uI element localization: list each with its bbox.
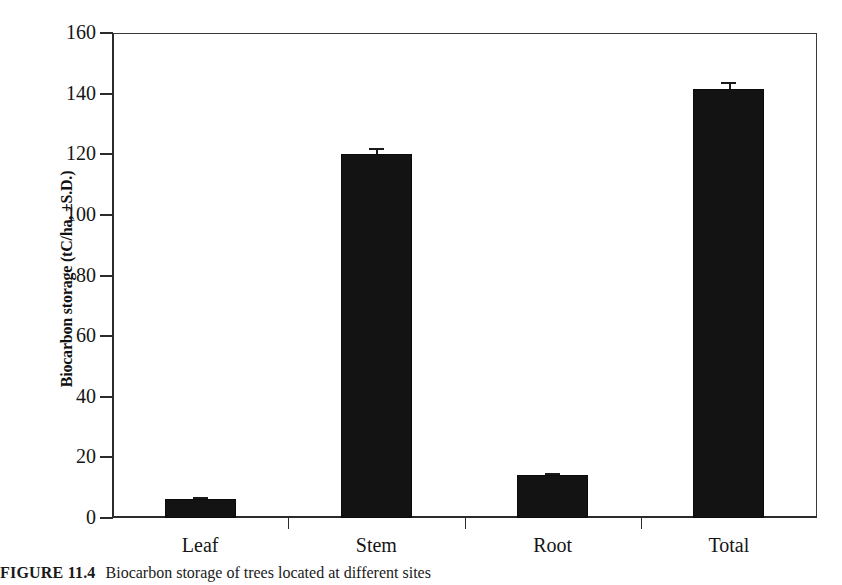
error-bar-cap-root bbox=[545, 473, 560, 475]
bar-total bbox=[693, 89, 764, 518]
caption-body: Biocarbon storage of trees located at di… bbox=[106, 564, 431, 581]
x-tick-mark bbox=[288, 518, 289, 529]
error-bar-cap-stem bbox=[369, 148, 384, 150]
y-tick-mark bbox=[100, 517, 113, 519]
figure-container: Biocarbon storage (tC/ha, ±S.D.) 0204060… bbox=[0, 0, 842, 585]
figure-caption: FIGURE 11.4Biocarbon storage of trees lo… bbox=[0, 564, 842, 582]
error-bar-cap-leaf bbox=[193, 497, 208, 499]
y-tick-mark bbox=[100, 32, 113, 34]
y-tick-mark bbox=[100, 335, 113, 337]
y-tick-label: 80 bbox=[48, 265, 96, 285]
x-tick-label-stem: Stem bbox=[296, 534, 456, 557]
y-tick-mark bbox=[100, 275, 113, 277]
x-tick-label-leaf: Leaf bbox=[120, 534, 280, 557]
y-tick-label: 120 bbox=[48, 143, 96, 163]
y-tick-label: 60 bbox=[48, 325, 96, 345]
y-tick-label: 100 bbox=[48, 204, 96, 224]
x-tick-mark bbox=[641, 518, 642, 529]
bar-root bbox=[517, 475, 588, 518]
y-axis-labels: 020406080100120140160 bbox=[40, 0, 96, 585]
y-tick-mark bbox=[100, 456, 113, 458]
caption-number: FIGURE 11.4 bbox=[0, 564, 96, 581]
y-tick-mark bbox=[100, 153, 113, 155]
y-tick-mark bbox=[100, 396, 113, 398]
y-tick-label: 40 bbox=[48, 386, 96, 406]
x-tick-mark bbox=[465, 518, 466, 529]
y-tick-label: 160 bbox=[48, 22, 96, 42]
x-tick-label-root: Root bbox=[473, 534, 633, 557]
y-tick-label: 20 bbox=[48, 446, 96, 466]
bar-leaf bbox=[165, 499, 236, 518]
y-tick-label: 0 bbox=[48, 507, 96, 527]
bar-stem bbox=[341, 154, 412, 518]
error-bar-cap-total bbox=[721, 82, 736, 84]
y-tick-label: 140 bbox=[48, 83, 96, 103]
x-tick-label-total: Total bbox=[649, 534, 809, 557]
y-tick-mark bbox=[100, 214, 113, 216]
y-tick-mark bbox=[100, 93, 113, 95]
